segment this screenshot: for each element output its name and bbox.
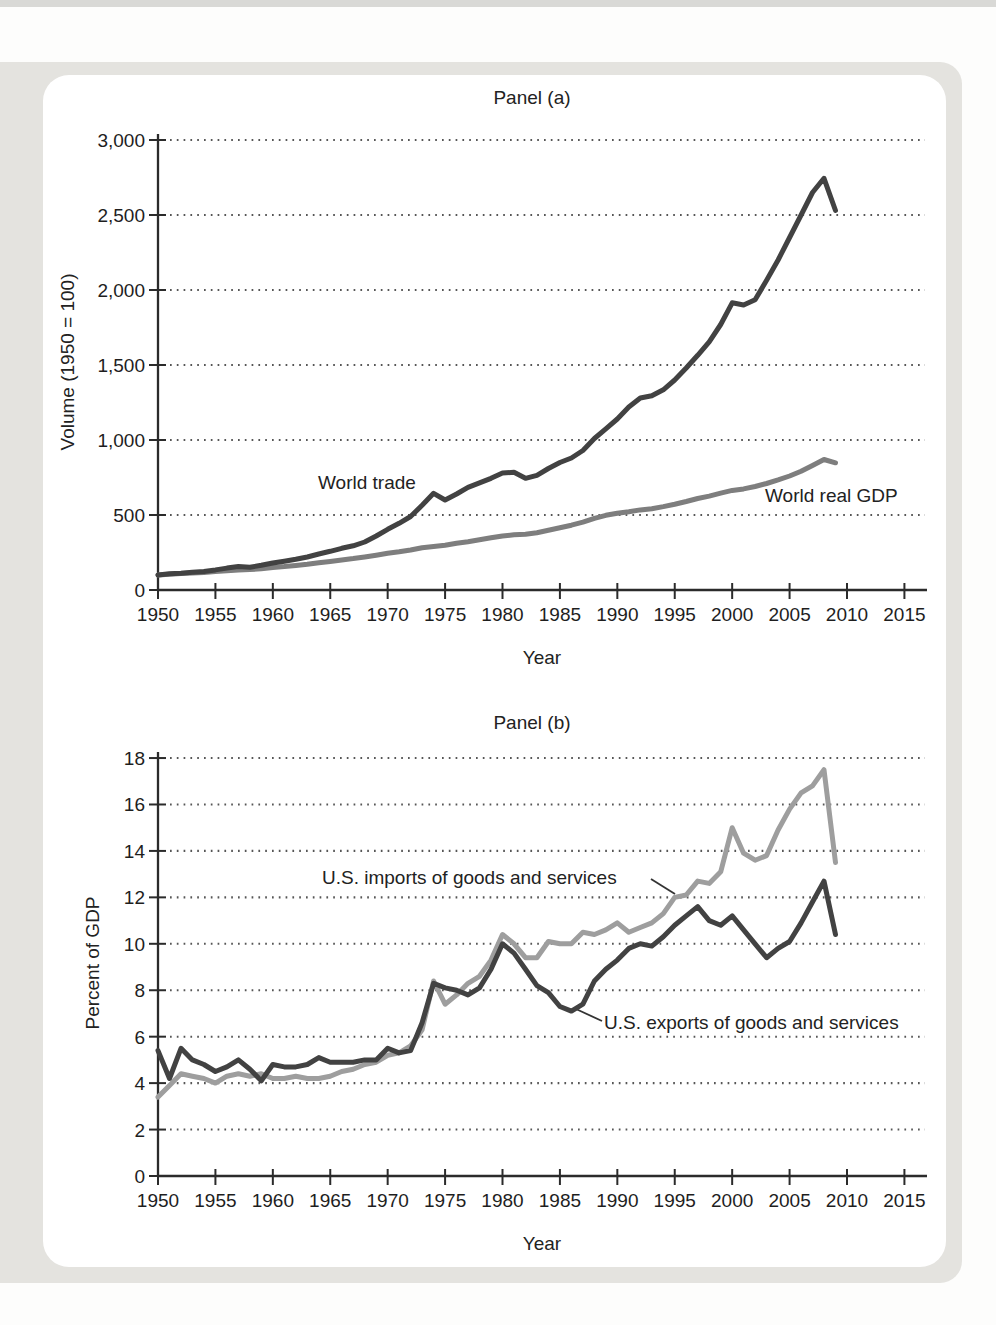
x-axis-tick-label: 2005 bbox=[768, 604, 810, 625]
x-axis-tick-label: 1960 bbox=[252, 604, 294, 625]
u-s-imports-of-goods-and-services-line bbox=[158, 770, 836, 1097]
panel-a-y-axis-title: Volume (1950 = 100) bbox=[58, 274, 77, 451]
x-axis-tick-label: 1960 bbox=[252, 1190, 294, 1211]
y-axis-tick-label: 2,500 bbox=[97, 205, 145, 226]
x-axis-tick-label: 2000 bbox=[711, 604, 753, 625]
x-axis-tick-label: 2005 bbox=[768, 1190, 810, 1211]
y-axis-tick-label: 4 bbox=[134, 1073, 145, 1094]
y-axis-tick-label: 3,000 bbox=[97, 130, 145, 151]
panel-a-title: Panel (a) bbox=[493, 88, 570, 107]
x-axis-tick-label: 2010 bbox=[826, 604, 868, 625]
x-axis-tick-label: 1990 bbox=[596, 1190, 638, 1211]
x-axis-tick-label: 1975 bbox=[424, 1190, 466, 1211]
y-axis-tick-label: 10 bbox=[124, 934, 145, 955]
x-axis-tick-label: 1965 bbox=[309, 1190, 351, 1211]
y-axis-tick-label: 16 bbox=[124, 794, 145, 815]
y-axis-tick-label: 2,000 bbox=[97, 280, 145, 301]
y-axis-tick-label: 18 bbox=[124, 748, 145, 769]
x-axis-tick-label: 1965 bbox=[309, 604, 351, 625]
x-axis-tick-label: 1995 bbox=[654, 604, 696, 625]
x-axis-tick-label: 2010 bbox=[826, 1190, 868, 1211]
y-axis-tick-label: 0 bbox=[134, 1166, 145, 1187]
y-axis-tick-label: 8 bbox=[134, 980, 145, 1001]
us-imports-label: U.S. imports of goods and services bbox=[322, 868, 617, 887]
y-axis-tick-label: 2 bbox=[134, 1120, 145, 1141]
world-trade-label: World trade bbox=[318, 473, 416, 492]
x-axis-tick-label: 1990 bbox=[596, 604, 638, 625]
y-axis-tick-label: 6 bbox=[134, 1027, 145, 1048]
panel-b-x-axis-title: Year bbox=[523, 1234, 561, 1253]
x-axis-tick-label: 1985 bbox=[539, 1190, 581, 1211]
x-axis-tick-label: 2015 bbox=[883, 604, 925, 625]
x-axis-tick-label: 1950 bbox=[137, 604, 179, 625]
y-axis-tick-label: 12 bbox=[124, 887, 145, 908]
x-axis-tick-label: 1955 bbox=[194, 1190, 236, 1211]
y-axis-tick-label: 1,000 bbox=[97, 430, 145, 451]
panel-b-title: Panel (b) bbox=[493, 713, 570, 732]
label-leader-line bbox=[651, 879, 675, 894]
u-s-exports-of-goods-and-services-line bbox=[158, 881, 836, 1081]
label-leader-line bbox=[576, 1009, 602, 1021]
x-axis-tick-label: 1980 bbox=[481, 604, 523, 625]
x-axis-tick-label: 1950 bbox=[137, 1190, 179, 1211]
y-axis-tick-label: 1,500 bbox=[97, 355, 145, 376]
y-axis-tick-label: 14 bbox=[124, 841, 146, 862]
x-axis-tick-label: 1970 bbox=[367, 1190, 409, 1211]
x-axis-tick-label: 1955 bbox=[194, 604, 236, 625]
world-real-gdp-label: World real GDP bbox=[765, 486, 898, 505]
x-axis-tick-label: 2015 bbox=[883, 1190, 925, 1211]
page-background: 05001,0001,5002,0002,5003,00019501955196… bbox=[0, 0, 996, 1325]
panel-a-x-axis-title: Year bbox=[523, 648, 561, 667]
x-axis-tick-label: 1995 bbox=[654, 1190, 696, 1211]
x-axis-tick-label: 2000 bbox=[711, 1190, 753, 1211]
charts-canvas: 05001,0001,5002,0002,5003,00019501955196… bbox=[0, 0, 996, 1325]
y-axis-tick-label: 500 bbox=[113, 505, 145, 526]
x-axis-tick-label: 1985 bbox=[539, 604, 581, 625]
y-axis-tick-label: 0 bbox=[134, 580, 145, 601]
x-axis-tick-label: 1975 bbox=[424, 604, 466, 625]
x-axis-tick-label: 1970 bbox=[367, 604, 409, 625]
panel-b-y-axis-title: Percent of GDP bbox=[83, 896, 102, 1029]
x-axis-tick-label: 1980 bbox=[481, 1190, 523, 1211]
us-exports-label: U.S. exports of goods and services bbox=[604, 1013, 899, 1032]
